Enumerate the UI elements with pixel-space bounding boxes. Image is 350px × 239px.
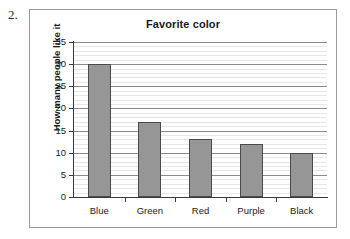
x-tick-label-black: Black [276,206,327,216]
chart-frame: Favorite color How many people like it 0… [29,9,337,228]
figure-number: 2. [8,8,18,21]
x-tick-label-red: Red [175,206,226,216]
plot-area [74,42,327,197]
y-tick-mark-10 [69,153,74,154]
y-tick-label: 0 [40,192,66,202]
y-tick-label: 20 [40,103,66,113]
y-tick-mark-0 [69,197,74,198]
y-tick-mark-15 [69,131,74,132]
x-tick-label-green: Green [125,206,176,216]
x-tick-mark [276,198,277,202]
y-tick-mark-30 [69,64,74,65]
x-axis-line [73,197,328,198]
x-tick-mark [226,198,227,202]
x-tick-label-purple: Purple [226,206,277,216]
chart-title: Favorite color [30,18,336,30]
y-tick-label: 30 [40,59,66,69]
x-tick-mark [175,198,176,202]
bar-blue[interactable] [88,64,111,197]
gridline-35 [74,42,327,43]
y-tick-label: 5 [40,170,66,180]
gridline-15 [74,131,327,132]
x-tick-mark [125,198,126,202]
x-tick-label-blue: Blue [74,206,125,216]
bar-green[interactable] [138,122,161,197]
y-tick-label: 15 [40,126,66,136]
y-tick-label: 35 [40,37,66,47]
bar-red[interactable] [189,139,212,197]
y-tick-mark-25 [69,86,74,87]
y-tick-mark-5 [69,175,74,176]
bar-purple[interactable] [240,144,263,197]
gridline-20 [74,108,327,109]
gridline-25 [74,86,327,87]
y-tick-mark-35 [69,42,74,43]
y-tick-label: 10 [40,148,66,158]
bar-black[interactable] [290,153,313,197]
y-tick-mark-20 [69,108,74,109]
y-tick-label: 25 [40,81,66,91]
gridline-30 [74,64,327,65]
